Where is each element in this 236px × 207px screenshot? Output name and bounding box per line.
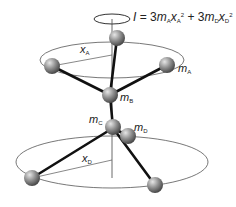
formula-xA: x — [171, 10, 177, 24]
formula-xD: x — [219, 10, 225, 24]
label-mB: mB — [120, 91, 133, 103]
formula-subA2: A — [177, 18, 181, 24]
label-mB-main: m — [120, 91, 129, 103]
sphere-mC — [105, 119, 121, 135]
sphere-bottom-right — [147, 177, 163, 193]
bond-bottom-left — [32, 128, 113, 178]
formula-subD: D — [214, 18, 218, 24]
sphere-right — [159, 57, 175, 73]
sphere-bottom-left — [24, 170, 40, 186]
label-mA: mA — [178, 62, 191, 74]
formula-subD2: D — [225, 18, 229, 24]
label-xA: xA — [80, 43, 90, 55]
bond-left — [52, 66, 110, 95]
formula-sq1: 2 — [181, 12, 184, 18]
label-mD-sub: D — [143, 128, 147, 134]
label-xA-main: x — [80, 43, 86, 55]
formula-mD: m — [204, 10, 214, 24]
label-mC-sub: C — [98, 120, 102, 126]
label-xD: xD — [82, 152, 92, 164]
bond-top — [110, 38, 117, 95]
xA-radius — [52, 55, 112, 66]
molecule-diagram: I = 3mAxA2 + 3mDxD2 xA mA mB mC mD xD — [0, 0, 236, 207]
formula-subA: A — [167, 18, 171, 24]
label-mD: mD — [134, 121, 148, 133]
sphere-mB — [102, 87, 118, 103]
label-mA-main: m — [178, 62, 187, 74]
label-xD-sub: D — [88, 159, 92, 165]
label-xA-sub: A — [86, 50, 90, 56]
sphere-top — [109, 30, 125, 46]
label-xD-main: x — [82, 152, 88, 164]
moment-of-inertia-formula: I = 3mAxA2 + 3mDxD2 — [133, 10, 232, 24]
label-mD-main: m — [134, 121, 143, 133]
label-mA-sub: A — [187, 69, 191, 75]
label-mB-sub: B — [129, 98, 133, 104]
formula-sq2: 2 — [229, 12, 232, 18]
formula-mA: m — [157, 10, 167, 24]
diagram-graphic — [0, 0, 236, 207]
sphere-left — [44, 58, 60, 74]
label-mC-main: m — [89, 113, 98, 125]
xD-radius — [32, 160, 112, 178]
formula-eq: = 3 — [136, 10, 156, 24]
bond-right — [110, 65, 167, 95]
label-mC: mC — [89, 113, 103, 125]
formula-plus: + 3 — [184, 10, 204, 24]
